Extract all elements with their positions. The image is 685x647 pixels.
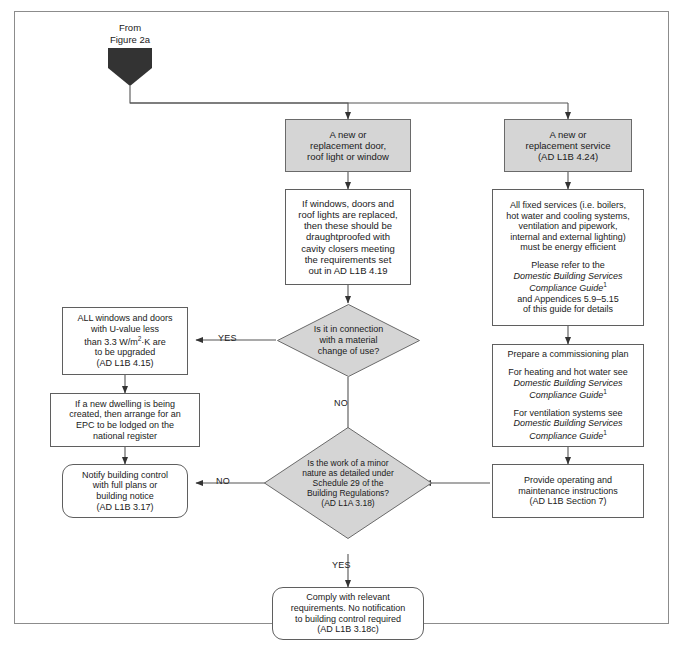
decision-2-text: Is the work of a minor nature as detaile… xyxy=(263,426,433,540)
decision-minor-nature[interactable]: Is the work of a minor nature as detaile… xyxy=(263,426,433,540)
fixed-guide-details: of this guide for details xyxy=(523,304,613,314)
decision-1-line-1: Is it in connection xyxy=(314,324,384,334)
notify-line-1: Notify building control xyxy=(82,470,168,480)
commissioning-heading: Prepare a commissioning plan xyxy=(507,349,628,359)
epc-line-3: EPC to be lodged on the xyxy=(76,420,174,430)
decision-material-change-of-use[interactable]: Is it in connection with a material chan… xyxy=(276,303,421,378)
uvalue-line-1: ALL windows and doors xyxy=(77,313,172,323)
commissioning-guide-italic-1b: Compliance Guide xyxy=(529,390,603,400)
edge-label-material-change-yes: YES xyxy=(218,333,237,343)
from-label-line1: From xyxy=(119,22,141,33)
comply-line-3: to building control required xyxy=(295,614,401,624)
fixed-guide-italic-1: Domestic Building Services xyxy=(513,271,622,281)
service-line-1: A new or xyxy=(550,129,587,140)
fixed-guide-footnote-marker: 1 xyxy=(603,281,607,288)
edge-label-material-change-no: NO xyxy=(334,398,348,408)
decision-1-text: Is it in connection with a material chan… xyxy=(276,303,421,378)
fixed-line-4: internal and external lighting) xyxy=(510,232,626,242)
node-all-windows-and-doors-u-value[interactable]: ALL windows and doors with U-value less … xyxy=(62,307,188,375)
operating-line-2: maintenance instructions xyxy=(518,486,618,496)
paragraph-gap xyxy=(497,253,639,260)
service-line-2: replacement service xyxy=(525,140,610,151)
pentagon-connector-icon xyxy=(106,46,154,88)
edge-label-minor-nature-no: NO xyxy=(216,476,230,486)
fixed-line-2: hot water and cooling systems, xyxy=(506,211,630,221)
node-draughtproofing-requirements[interactable]: If windows, doors and roof lights are re… xyxy=(285,189,411,285)
operating-line-1: Provide operating and xyxy=(524,475,612,485)
comply-line-2: requirements. No notification xyxy=(291,603,406,613)
edge-label-minor-nature-yes: YES xyxy=(332,560,351,570)
decision-2-line-2: nature as detailed under xyxy=(302,468,394,478)
decision-1-line-3: change of use? xyxy=(318,346,380,356)
fixed-line-3: ventilation and pipework, xyxy=(518,221,617,231)
uvalue-line-4: to be upgraded xyxy=(95,347,156,357)
from-figure-label: From Figure 2a xyxy=(92,22,168,46)
node-notify-building-control[interactable]: Notify building control with full plans … xyxy=(62,464,188,518)
node-prepare-a-commissioning-plan[interactable]: Prepare a commissioning plan For heating… xyxy=(492,344,644,447)
commissioning-guide-italic-1a: Domestic Building Services xyxy=(513,378,622,388)
draught-line-3: then these should be xyxy=(304,220,392,231)
decision-2-line-5: (AD L1A 3.18) xyxy=(321,498,374,508)
commissioning-footnote-marker-1: 1 xyxy=(603,388,607,395)
commissioning-guide-italic-2b: Compliance Guide xyxy=(529,431,603,441)
uvalue-line-3b: ·K are xyxy=(141,337,166,347)
decision-2-line-1: Is the work of a minor xyxy=(307,458,388,468)
draught-line-1: If windows, doors and xyxy=(302,198,394,209)
notify-line-3: building notice xyxy=(96,491,154,501)
epc-line-4: national register xyxy=(93,431,157,441)
draught-line-6: the requirements set xyxy=(305,254,392,265)
door-line-2: replacement door, xyxy=(310,140,386,151)
node-a-new-or-replacement-door[interactable]: A new or replacement door, roof light or… xyxy=(285,119,411,172)
door-line-1: A new or xyxy=(330,129,367,140)
door-line-3: roof light or window xyxy=(307,151,389,162)
service-line-3: (AD L1B 4.24) xyxy=(538,151,598,162)
node-all-fixed-services[interactable]: All fixed services (i.e. boilers, hot wa… xyxy=(492,189,644,326)
node-comply-with-relevant-requirements[interactable]: Comply with relevant requirements. No no… xyxy=(272,587,424,640)
uvalue-line-2: with U-value less xyxy=(91,324,159,334)
node-new-dwelling-epc[interactable]: If a new dwelling is being created, then… xyxy=(50,393,200,447)
fixed-appendices: and Appendices 5.9–5.15 xyxy=(517,294,619,304)
fixed-line-1: All fixed services (i.e. boilers, xyxy=(510,200,626,210)
draught-line-5: cavity closers meeting xyxy=(301,243,394,254)
fixed-guide-italic-2: Compliance Guide xyxy=(529,283,603,293)
commissioning-footnote-marker-2: 1 xyxy=(603,429,607,436)
commissioning-ventilation-intro: For ventilation systems see xyxy=(513,408,622,418)
node-provide-operating-and-maintenance-instructions[interactable]: Provide operating and maintenance instru… xyxy=(492,464,644,518)
commissioning-guide-italic-2a: Domestic Building Services xyxy=(513,418,622,428)
draught-line-4: draughtproofed with xyxy=(306,231,390,242)
uvalue-line-5: (AD L1B 4.15) xyxy=(96,358,153,368)
decision-2-line-4: Building Regulations? xyxy=(307,488,389,498)
flowchart-page: From Figure 2a A new or replacement door… xyxy=(0,0,685,647)
notify-line-4: (AD L1B 3.17) xyxy=(96,502,153,512)
paragraph-gap xyxy=(497,401,639,408)
notify-line-2: with full plans or xyxy=(93,480,158,490)
fixed-line-5: must be energy efficient xyxy=(520,242,615,252)
commissioning-heating-intro: For heating and hot water see xyxy=(508,367,628,377)
comply-line-1: Comply with relevant xyxy=(306,592,390,602)
uvalue-line-3a: than 3.3 W/m xyxy=(84,337,138,347)
paragraph-gap xyxy=(497,360,639,367)
decision-2-line-3: Schedule 29 of the xyxy=(313,478,384,488)
comply-line-4: (AD L1B 3.18c) xyxy=(317,624,379,634)
operating-line-3: (AD L1B Section 7) xyxy=(529,496,606,506)
node-a-new-or-replacement-service[interactable]: A new or replacement service (AD L1B 4.2… xyxy=(504,119,632,172)
draught-line-7: out in AD L1B 4.19 xyxy=(308,265,387,276)
decision-1-line-2: with a material xyxy=(319,335,377,345)
epc-line-1: If a new dwelling is being xyxy=(75,399,175,409)
from-label-line2: Figure 2a xyxy=(110,34,150,45)
fixed-refer-intro: Please refer to the xyxy=(531,260,605,270)
draught-line-2: roof lights are replaced, xyxy=(298,209,397,220)
epc-line-2: created, then arrange for an xyxy=(69,409,181,419)
